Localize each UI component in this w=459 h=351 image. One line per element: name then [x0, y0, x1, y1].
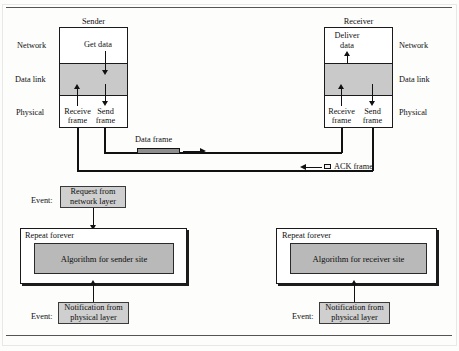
sender-request-event-line2: network layer: [70, 197, 116, 207]
ack-frame-wire-sender-rise: [77, 128, 79, 171]
sender-algorithm-box[interactable]: Algorithm for sender site: [34, 243, 174, 274]
sender-receive-frame-arrow-line: [77, 86, 78, 106]
data-frame-direction-arrowhead: [200, 148, 206, 154]
sender-bottom-event-label: Event:: [31, 312, 53, 322]
data-frame-label: Data frame: [135, 135, 172, 145]
receiver-receive-frame-arrow-line: [341, 86, 342, 106]
ack-frame-label: ACK frame: [334, 162, 373, 172]
ack-frame-direction-arrowhead: [300, 164, 306, 170]
receiver-notification-event-line2: physical layer: [331, 313, 377, 323]
receiver-layer-label-physical: Physical: [399, 108, 427, 118]
sender-request-event-line1: Request from: [71, 187, 116, 197]
receiver-notification-arrowhead: [351, 280, 357, 285]
sender-send-frame-arrowhead: [102, 101, 108, 106]
receiver-send-frame-arrow-line: [372, 84, 373, 102]
receiver-layer-label-datalink: Data link: [399, 75, 430, 85]
top-rule: [6, 7, 452, 8]
ack-frame-wire-horizontal: [77, 170, 373, 172]
receiver-data-link-band: [325, 63, 392, 96]
receiver-deliver-data-label-line2: data: [326, 41, 368, 51]
sender-layer-label-physical: Physical: [16, 108, 44, 118]
sender-repeat-forever-label: Repeat forever: [25, 231, 74, 241]
receiver-deliver-data-label-line1: Deliver: [326, 31, 368, 41]
receiver-receive-frame-label-line2: frame: [322, 116, 361, 126]
receiver-title: Receiver: [324, 17, 393, 27]
sender-notification-event-line1: Notification from: [64, 303, 122, 313]
sender-algorithm-label: Algorithm for sender site: [61, 254, 148, 264]
receiver-repeat-forever-label: Repeat forever: [282, 231, 331, 241]
receiver-notification-event-box[interactable]: Notification from physical layer: [319, 302, 390, 324]
sender-get-data-arrow-line: [105, 51, 106, 71]
sender-get-data-arrowhead: [102, 70, 108, 75]
ack-frame-glyph: [324, 164, 331, 169]
receiver-algorithm-box[interactable]: Algorithm for receiver site: [290, 243, 427, 274]
receiver-deliver-data-arrowhead: [344, 51, 350, 56]
data-frame-glyph: [137, 148, 180, 154]
sender-layer-label-network: Network: [17, 41, 46, 51]
data-frame-direction-line: [183, 151, 201, 152]
sender-layer-label-datalink: Data link: [15, 75, 46, 85]
sender-top-event-label: Event:: [31, 196, 53, 206]
sender-notification-arrowhead: [90, 280, 96, 285]
sender-get-data-label: Get data: [84, 40, 112, 50]
sender-notification-event-line2: physical layer: [70, 313, 116, 323]
receiver-receive-frame-arrowhead: [338, 84, 344, 89]
sender-notification-event-box[interactable]: Notification from physical layer: [58, 302, 129, 324]
data-frame-wire-sender-drop: [104, 128, 106, 153]
receiver-send-frame-arrowhead: [369, 101, 375, 106]
sender-receive-frame-arrowhead: [74, 84, 80, 89]
receiver-notification-event-line1: Notification from: [325, 303, 383, 313]
figure-canvas: Sender Network Data link Physical Get da…: [0, 0, 459, 351]
receiver-send-frame-label-line2: frame: [357, 116, 388, 126]
sender-send-frame-arrow-line: [105, 84, 106, 102]
sender-title: Sender: [59, 17, 128, 27]
ack-frame-direction-line: [306, 167, 322, 168]
receiver-algorithm-label: Algorithm for receiver site: [313, 254, 405, 264]
sender-send-frame-label-line2: frame: [90, 116, 121, 126]
bottom-rule: [6, 335, 452, 336]
sender-data-link-band: [60, 63, 127, 96]
data-frame-wire-receiver-rise: [341, 128, 343, 153]
receiver-layer-label-network: Network: [399, 41, 428, 51]
sender-request-event-box[interactable]: Request from network layer: [60, 186, 126, 208]
receiver-bottom-event-label: Event:: [292, 312, 314, 322]
